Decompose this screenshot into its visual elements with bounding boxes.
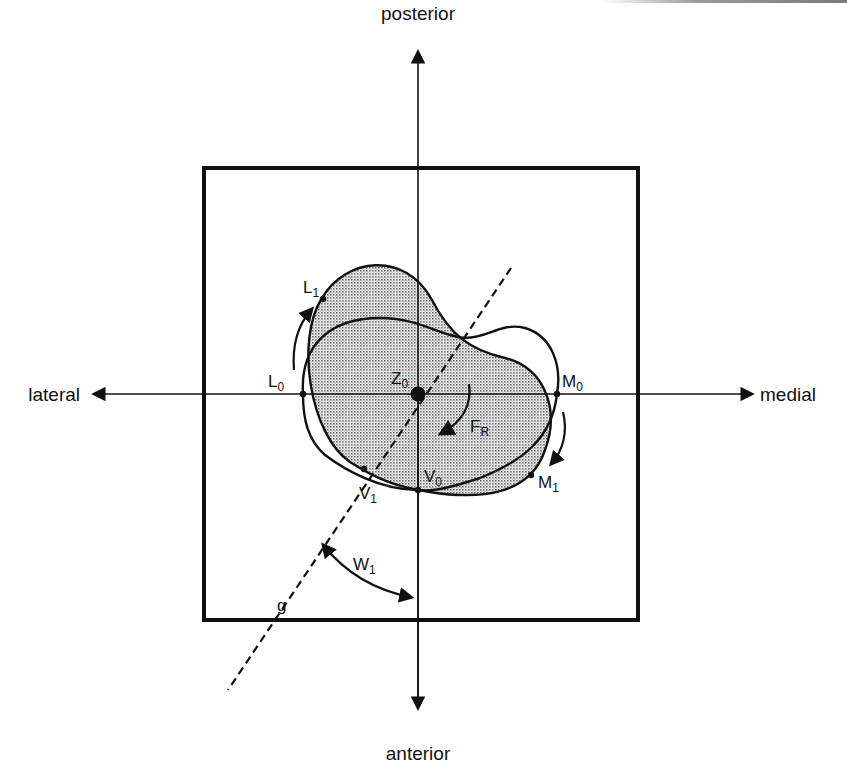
label-v1: V1 — [359, 484, 377, 506]
label-l1: L1 — [303, 278, 319, 300]
label-posterior: posterior — [381, 3, 456, 24]
point-m1 — [528, 472, 534, 478]
arrow-m0-to-m1 — [552, 412, 565, 463]
label-g: g — [277, 596, 286, 615]
label-w1: W1 — [353, 555, 376, 577]
point-v0 — [415, 487, 421, 493]
rotation-diagram: posterior anterior lateral medial L1 L0 … — [0, 0, 847, 776]
point-l1 — [320, 296, 326, 302]
label-lateral: lateral — [28, 384, 80, 405]
center-point-z0 — [411, 387, 426, 402]
label-l0: L0 — [268, 372, 284, 394]
point-m0 — [554, 391, 560, 397]
label-anterior: anterior — [386, 743, 451, 764]
point-l0 — [300, 391, 306, 397]
point-v1 — [361, 466, 367, 472]
label-m0: M0 — [562, 372, 583, 394]
label-medial: medial — [760, 384, 816, 405]
label-m1: M1 — [538, 473, 559, 495]
